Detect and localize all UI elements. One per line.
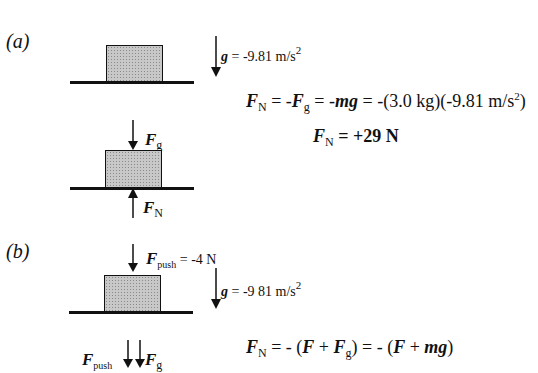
fn-label-a: FN [143,198,163,221]
push-force-arrow-icon [122,340,134,368]
ground-line-b [69,311,193,314]
force-normal-arrow-icon [127,188,139,218]
gravity-label-b: g = -9 81 m/s2 [221,279,301,300]
gravity-label-a: g = -9.81 m/s2 [221,44,301,65]
normal-force-result-a: FN = +29 N [313,126,399,150]
panel-b-label: (b) [6,240,29,263]
ground-line-a [70,81,194,84]
normal-force-equation-b: FN = - (F + Fg) = - (F + mg) [246,337,453,361]
block-a [106,45,163,82]
push-label-fbd: Fpush [82,350,112,371]
push-arrow-icon [127,244,139,272]
block-b [104,275,161,312]
force-gravity-arrow-icon [127,120,139,150]
push-label-b: Fpush = -4 N [146,249,216,270]
panel-a-label: (a) [6,30,29,53]
normal-force-equation-a: FN = -Fg = -mg = -(3.0 kg)(-9.81 m/s2) [246,90,526,115]
block-a-fbd [105,150,162,188]
fg-label-fbd-b: Fg [145,350,162,373]
